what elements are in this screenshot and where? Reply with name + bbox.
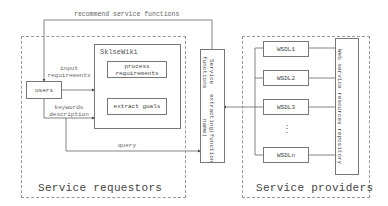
recommend-label: recommend service functions [74,11,179,18]
keywords-label-line1: keywords [45,104,93,111]
input-label-line2: requirements [45,72,93,79]
wsdl-label-n: WSDLn [264,148,308,162]
wsdl-label-3: WSDL3 [264,100,308,114]
wsdl-node-3[interactable]: WSDL3 [263,99,309,115]
service-requestors-title: Service requestors [38,182,162,194]
keywords-description-label: keywords description [45,104,93,118]
query-label: query [118,142,136,149]
repository-label: Web service resources repository [336,39,343,174]
process-line2: requirements [115,70,158,77]
wsdl-node-1[interactable]: WSDL1 [263,41,309,57]
input-requirements-label: input requirements [45,65,93,79]
input-label-line1: input [45,65,93,72]
process-requirements-label: process requirements [108,62,166,77]
sklsewiki-node[interactable]: SklseWiki [94,44,181,129]
extractor-line1: Service functions [201,50,215,94]
wsdl-node-n[interactable]: WSDLn [263,147,309,163]
keywords-label-line2: description [45,111,93,118]
extract-goals-node[interactable]: extract goals [107,98,167,115]
service-functions-extractor-node[interactable]: Service functions extracting(function na… [200,49,225,163]
extractor-label: Service functions extracting(function na… [201,50,215,162]
sklsewiki-title: SklseWiki [100,48,138,56]
wsdl-label-1: WSDL1 [264,42,308,56]
process-line1: process [124,63,149,70]
wsdl-label-2: WSDL2 [264,71,308,85]
service-providers-title: Service providers [256,182,373,194]
wsdl-ellipsis: ⋮ [282,124,292,136]
wsdl-node-2[interactable]: WSDL2 [263,70,309,86]
extractor-line2: extracting(function name) [201,94,215,162]
web-service-repository-node[interactable]: Web service resources repository [335,38,359,175]
extract-goals-label: extract goals [108,99,166,114]
process-requirements-node[interactable]: process requirements [107,61,167,78]
users-label: users [27,82,61,98]
users-node[interactable]: users [26,81,62,99]
